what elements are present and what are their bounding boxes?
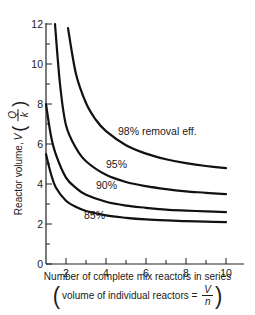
y-fraction-numerator: Q — [7, 109, 19, 121]
y-fraction-denominator: k — [19, 112, 30, 117]
y-axis-title: Reactor volume, V ( Q k ) — [7, 101, 30, 215]
x-subtitle-text: volume of individual reactors = — [62, 289, 197, 303]
x-open-paren: ( — [53, 283, 60, 307]
curve-85-percent-label: 85% — [84, 209, 105, 221]
x-close-paren: ) — [215, 283, 222, 307]
curves — [46, 24, 226, 222]
y-close-paren: ) — [9, 101, 27, 107]
curve-95-percent — [55, 24, 226, 194]
curve-95-percent-label: 95% — [106, 158, 127, 170]
y-tick-label: 2 — [37, 218, 43, 230]
axes: 024681012246810 — [31, 18, 244, 279]
x-axis-subtitle: ( volume of individual reactors = V n ) — [20, 284, 255, 307]
y-tick-label: 4 — [37, 178, 43, 190]
y-open-paren: ( — [9, 126, 27, 132]
curve-98-percent-label: 98% removal eff. — [118, 125, 197, 137]
curve-98-percent — [68, 28, 226, 168]
curve-90-percent — [46, 104, 226, 212]
y-fraction: Q k — [7, 109, 30, 121]
curve-90-percent-label: 90% — [96, 179, 117, 191]
x-fraction: V n — [202, 284, 213, 307]
y-axis-title-text: Reactor volume, — [13, 142, 24, 215]
y-axis-symbol: V — [13, 134, 24, 141]
x-axis-title: Number of complete mix reactors in serie… — [20, 270, 255, 307]
y-tick-label: 12 — [31, 18, 43, 30]
y-tick-label: 10 — [31, 58, 43, 70]
chart: 024681012246810 98% removal eff.95%90%85… — [0, 0, 255, 315]
x-fraction-denominator: n — [205, 296, 211, 307]
y-tick-label: 0 — [37, 258, 43, 270]
x-fraction-numerator: V — [202, 284, 213, 296]
y-tick-label: 6 — [37, 138, 43, 150]
y-tick-label: 8 — [37, 98, 43, 110]
